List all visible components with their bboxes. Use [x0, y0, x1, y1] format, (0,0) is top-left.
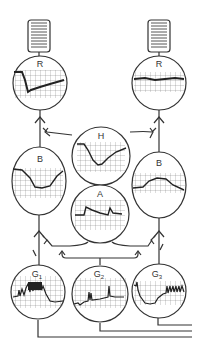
trace-R-left: R — [13, 56, 67, 110]
label-R-right: R — [156, 59, 163, 69]
trace-G1: G1 — [11, 265, 65, 319]
trace-H: H — [72, 127, 130, 185]
label-R-left: R — [37, 59, 44, 69]
neural-circuit-diagram: R R H B B A G1 — [0, 0, 200, 355]
label-H: H — [98, 131, 105, 141]
trace-A: A — [71, 185, 129, 243]
trace-G2: G2 — [72, 266, 128, 322]
label-B-left: B — [37, 154, 43, 164]
coil-left-icon — [28, 20, 50, 57]
label-A: A — [97, 189, 103, 199]
label-B-right: B — [156, 158, 162, 168]
coil-right-icon — [148, 20, 170, 57]
trace-B-left: B — [12, 147, 66, 215]
trace-R-right: R — [132, 56, 186, 110]
trace-B-right: B — [132, 152, 186, 218]
trace-G3: G3 — [132, 264, 186, 318]
